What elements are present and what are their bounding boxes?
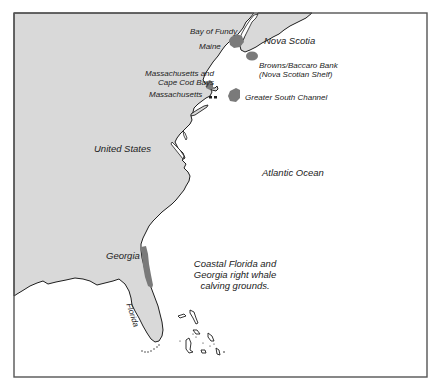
label-georgia: Georgia	[106, 250, 140, 261]
label-browns-baccaro-line2: (Nova Scotian Shelf)	[259, 70, 338, 79]
label-united-states: United States	[94, 143, 151, 154]
label-calving-line1: Coastal Florida and	[180, 258, 290, 269]
label-mass-cape-cod-line2: Cape Cod Bays	[144, 78, 214, 87]
islands-nantucket	[209, 96, 212, 99]
label-browns-baccaro: Browns/Baccaro Bank (Nova Scotian Shelf)	[259, 61, 338, 79]
label-mass-cape-cod-line1: Massachusetts and	[144, 69, 214, 78]
label-bay-of-fundy: Bay of Fundy	[190, 27, 237, 36]
label-maine: Maine	[199, 42, 221, 51]
label-calving-line2: Georgia right whale	[180, 269, 290, 280]
label-nova-scotia: Nova Scotia	[264, 35, 315, 46]
islands-marthas-vineyard	[214, 96, 217, 99]
label-massachusetts: Massachusetts	[149, 90, 202, 99]
label-atlantic-ocean: Atlantic Ocean	[262, 167, 324, 178]
label-mass-cape-cod-bays: Massachusetts and Cape Cod Bays	[144, 69, 214, 87]
label-calving-grounds: Coastal Florida and Georgia right whale …	[180, 258, 290, 291]
label-browns-baccaro-line1: Browns/Baccaro Bank	[259, 61, 338, 70]
right-whale-habitat-map	[0, 0, 438, 387]
label-calving-line3: calving grounds.	[180, 280, 290, 291]
habitat-browns-baccaro	[246, 52, 258, 61]
label-greater-south-channel: Greater South Channel	[245, 93, 327, 102]
